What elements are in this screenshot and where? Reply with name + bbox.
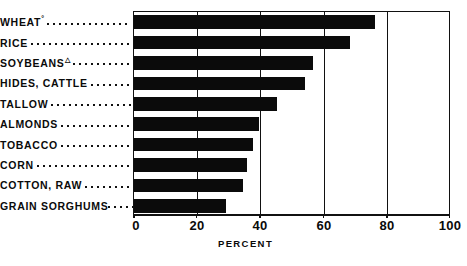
category-label: ALMONDS xyxy=(0,117,58,129)
bar-soybeans xyxy=(134,56,313,70)
x-tick-label-80: 80 xyxy=(379,219,394,232)
footnote-marker-triangle-icon: △ xyxy=(65,56,70,63)
bar-row xyxy=(134,94,449,114)
bar-row xyxy=(134,134,449,154)
leader-dots xyxy=(31,37,131,46)
category-label: SOYBEANS△ xyxy=(0,56,70,68)
bar-wheat xyxy=(134,15,375,29)
bar-tobacco xyxy=(134,138,253,152)
category-label: WHEAT° xyxy=(0,15,44,27)
bars-layer xyxy=(134,12,449,215)
footnote-marker-circle-icon: ° xyxy=(41,15,44,22)
bar-row xyxy=(134,114,449,134)
bar-row xyxy=(134,155,449,175)
leader-dots xyxy=(85,180,131,189)
category-label: TOBACCO xyxy=(0,138,58,150)
category-label: CORN xyxy=(0,158,34,170)
plot-area xyxy=(133,11,450,215)
x-tick-label-0: 0 xyxy=(132,219,140,232)
bar-row xyxy=(134,73,449,93)
category-label-row: GRAIN SORGHUMS xyxy=(0,195,133,215)
bar-corn xyxy=(134,158,247,172)
bar-row xyxy=(134,196,449,216)
x-tick-label-40: 40 xyxy=(252,219,267,232)
bar-row xyxy=(134,175,449,195)
leader-dots xyxy=(47,17,131,26)
bar-almonds xyxy=(134,117,259,131)
x-tick-label-100: 100 xyxy=(439,219,462,232)
category-label: GRAIN SORGHUMS xyxy=(0,199,108,211)
category-label: COTTON, RAW xyxy=(0,178,82,190)
bar-row xyxy=(134,53,449,73)
category-label-row: RICE xyxy=(0,31,133,51)
bar-row xyxy=(134,32,449,52)
bar-chart: WHEAT° RICE SOYBEANS△ HIDES, CATTLE TALL… xyxy=(0,0,467,266)
x-tick-label-60: 60 xyxy=(316,219,331,232)
x-tick-label-20: 20 xyxy=(189,219,204,232)
leader-dots xyxy=(37,159,131,168)
category-label-row: TALLOW xyxy=(0,93,133,113)
bar-tallow xyxy=(134,97,277,111)
category-label-row: SOYBEANS△ xyxy=(0,52,133,72)
category-label: HIDES, CATTLE xyxy=(0,76,88,88)
leader-dots xyxy=(91,78,131,87)
leader-dots xyxy=(61,119,131,128)
leader-dots xyxy=(108,200,133,209)
category-label-row: HIDES, CATTLE xyxy=(0,72,133,92)
bar-row xyxy=(134,12,449,32)
category-label-row: COTTON, RAW xyxy=(0,174,133,194)
category-label-column: WHEAT° RICE SOYBEANS△ HIDES, CATTLE TALL… xyxy=(0,11,133,215)
category-label-row: ALMONDS xyxy=(0,113,133,133)
leader-dots xyxy=(73,57,131,66)
category-label-row: WHEAT° xyxy=(0,11,133,31)
bar-grain-sorghums xyxy=(134,199,226,213)
x-axis-title-wrap: PERCENT xyxy=(0,238,467,249)
leader-dots xyxy=(51,98,131,107)
category-label-row: TOBACCO xyxy=(0,133,133,153)
leader-dots xyxy=(61,139,131,148)
category-label-row: CORN xyxy=(0,154,133,174)
x-axis-line xyxy=(133,214,450,216)
x-axis-title: PERCENT xyxy=(218,238,273,249)
bar-rice xyxy=(134,36,350,50)
bar-cotton-raw xyxy=(134,179,243,193)
category-label: TALLOW xyxy=(0,97,48,109)
bar-hides-cattle xyxy=(134,77,305,91)
category-label: RICE xyxy=(0,36,28,48)
